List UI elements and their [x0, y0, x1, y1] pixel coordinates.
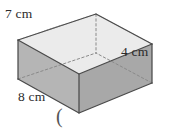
geometry-figure: 7 cm 4 cm 8 cm (	[0, 0, 170, 137]
dimension-label-height: 4 cm	[121, 45, 148, 59]
dimension-label-depth: 7 cm	[5, 7, 32, 21]
dimension-label-width: 8 cm	[18, 90, 45, 104]
trailing-parenthesis: (	[56, 106, 63, 126]
